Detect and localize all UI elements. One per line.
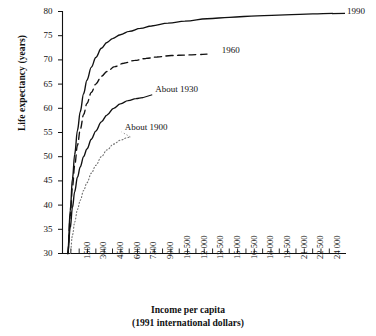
y-axis-ticks: [58, 12, 63, 254]
y-tick-label-60: 60: [31, 104, 53, 113]
preston-curve-plot: [0, 0, 376, 336]
x-tick-label-12000: 12 000: [200, 235, 209, 259]
series-label-1990: 1990: [347, 7, 365, 16]
x-tick-label-1500: 1500: [83, 241, 92, 258]
x-axis-title-line2: (1991 international dollars): [0, 317, 376, 329]
x-tick-label-3000: 3000: [99, 241, 108, 258]
series-label-about-1900: About 1900: [125, 123, 168, 132]
y-tick-label-40: 40: [31, 201, 53, 210]
x-tick-label-13500: 13 500: [216, 235, 225, 259]
y-tick-label-30: 30: [31, 249, 53, 258]
x-tick-label-22500: 22 500: [316, 235, 325, 259]
y-tick-label-50: 50: [31, 152, 53, 161]
x-axis-title-line1: Income per capita: [0, 304, 376, 316]
x-tick-label-18000: 18 000: [266, 235, 275, 259]
series-label-about-1930: About 1930: [155, 85, 198, 94]
series-line-about-1900: [70, 137, 130, 254]
data-series-layer: [68, 13, 333, 253]
y-tick-label-35: 35: [31, 225, 53, 234]
x-tick-label-9000: 9000: [166, 241, 175, 258]
x-tick-label-24000: 24 000: [333, 235, 342, 259]
x-tick-label-4500: 4500: [116, 241, 125, 258]
x-tick-label-16500: 16 500: [250, 235, 259, 259]
label-leader-lines: [122, 13, 345, 136]
y-tick-label-70: 70: [31, 55, 53, 64]
leader-line-about-1930: [143, 95, 153, 98]
leader-line-about-1900: [122, 132, 131, 137]
x-tick-label-10500: 10 500: [183, 235, 192, 259]
series-label-1960: 1960: [222, 46, 240, 55]
series-line-1990: [68, 13, 333, 253]
y-tick-label-75: 75: [31, 31, 53, 40]
axis-lines: [62, 11, 346, 254]
chart-figure: Life expectancy (years) 3035404550556065…: [0, 0, 376, 336]
x-tick-label-19500: 19 500: [283, 235, 292, 259]
y-axis-title: Life expectancy (years): [17, 3, 31, 163]
x-tick-label-15000: 15 000: [233, 235, 242, 259]
y-tick-label-80: 80: [31, 7, 53, 16]
y-tick-label-55: 55: [31, 128, 53, 137]
x-tick-label-6000: 6000: [133, 241, 142, 258]
y-tick-label-65: 65: [31, 80, 53, 89]
x-tick-label-21000: 21 000: [300, 235, 309, 259]
y-tick-label-45: 45: [31, 176, 53, 185]
x-tick-label-7500: 7500: [149, 241, 158, 258]
